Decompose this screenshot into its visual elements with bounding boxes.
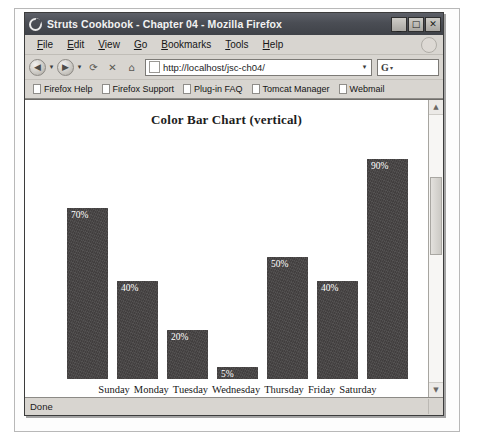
x-tick-saturday: Saturday: [339, 384, 376, 395]
menu-view[interactable]: View: [91, 39, 127, 50]
bar-sunday: 70%: [67, 208, 108, 380]
bar-chart: 70% 40% 20% 5% 50%: [25, 134, 428, 397]
screenshot-root: Struts Cookbook - Chapter 04 - Mozilla F…: [0, 0, 477, 447]
chart-plot-area: 70% 40% 20% 5% 50%: [67, 134, 408, 379]
stop-icon[interactable]: ✕: [104, 59, 121, 76]
menu-bookmarks[interactable]: Bookmarks: [154, 39, 218, 50]
bookmark-webmail[interactable]: Webmail: [335, 84, 389, 94]
x-tick-tuesday: Tuesday: [173, 384, 208, 395]
bar-monday: 40%: [117, 281, 158, 379]
navigation-toolbar: ◀ ▾ ▶ ▾ ⟳ ✕ ⌂ http://localhost/jsc-ch04/…: [25, 55, 443, 80]
bar-tuesday: 20%: [167, 330, 208, 379]
scroll-down-arrow-icon[interactable]: ▼: [429, 382, 443, 397]
status-bar: Done: [25, 397, 443, 415]
bookmark-firefox-help[interactable]: Firefox Help: [29, 84, 97, 94]
close-button[interactable]: ✕: [425, 17, 441, 32]
x-tick-sunday: Sunday: [98, 384, 130, 395]
google-search-icon[interactable]: G: [381, 62, 389, 73]
bar-value-label: 40%: [121, 283, 138, 293]
x-tick-friday: Friday: [308, 384, 335, 395]
bar-value-label: 40%: [321, 283, 338, 293]
bookmark-label: Firefox Help: [44, 84, 93, 94]
bookmark-page-icon: [339, 84, 347, 94]
bookmark-page-icon: [102, 84, 110, 94]
forward-arrow-icon[interactable]: ▶: [57, 59, 74, 76]
menubar: File Edit View Go Bookmarks Tools Help: [25, 35, 443, 55]
back-dropdown-caret-icon[interactable]: ▾: [48, 63, 55, 71]
x-tick-wednesday: Wednesday: [212, 384, 260, 395]
scrollbar-thumb[interactable]: [430, 177, 442, 255]
x-axis-tick-labels: Sunday Monday Tuesday Wednesday Thursday…: [67, 384, 408, 395]
bookmark-page-icon: [183, 84, 191, 94]
resize-grip-icon[interactable]: [428, 399, 443, 414]
home-icon[interactable]: ⌂: [123, 59, 140, 76]
menu-tools[interactable]: Tools: [218, 39, 255, 50]
bar-value-label: 20%: [171, 332, 188, 342]
bar-friday: 40%: [317, 281, 358, 379]
address-dropdown-caret-icon[interactable]: ▾: [358, 60, 371, 75]
bar-thursday: 50%: [267, 257, 308, 380]
bar-saturday: 90%: [367, 159, 408, 380]
menu-file[interactable]: File: [30, 39, 60, 50]
bookmarks-toolbar: Firefox Help Firefox Support Plug-in FAQ…: [25, 80, 443, 99]
bookmark-tomcat-manager[interactable]: Tomcat Manager: [248, 84, 334, 94]
x-tick-thursday: Thursday: [264, 384, 304, 395]
page-content: Color Bar Chart (vertical) 70% 40% 20%: [25, 100, 428, 397]
address-input[interactable]: http://localhost/jsc-ch04/: [163, 62, 358, 73]
status-text: Done: [25, 401, 428, 412]
bar-value-label: 90%: [371, 161, 388, 171]
page-title: Color Bar Chart (vertical): [25, 112, 428, 128]
bookmark-page-icon: [252, 84, 260, 94]
minimize-button[interactable]: _: [391, 17, 407, 32]
scroll-up-arrow-icon[interactable]: ▲: [429, 100, 443, 115]
vertical-scrollbar[interactable]: ▲ ▼: [428, 100, 443, 397]
forward-dropdown-caret-icon[interactable]: ▾: [76, 63, 83, 71]
firefox-logo-icon: [421, 37, 437, 53]
back-arrow-icon[interactable]: ◀: [29, 59, 46, 76]
window-title: Struts Cookbook - Chapter 04 - Mozilla F…: [47, 18, 391, 30]
menu-go[interactable]: Go: [127, 39, 154, 50]
bookmark-plug-in-faq[interactable]: Plug-in FAQ: [179, 84, 247, 94]
bookmark-firefox-support[interactable]: Firefox Support: [98, 84, 179, 94]
window-controls: _ □ ✕: [391, 17, 441, 32]
bar-value-label: 50%: [271, 259, 288, 269]
maximize-button[interactable]: □: [408, 17, 424, 32]
menu-edit[interactable]: Edit: [60, 39, 91, 50]
firefox-icon: [29, 18, 42, 31]
bookmark-label: Webmail: [350, 84, 385, 94]
reload-icon[interactable]: ⟳: [85, 59, 102, 76]
bookmark-label: Plug-in FAQ: [194, 84, 243, 94]
minimize-icon: _: [397, 23, 402, 32]
address-bar[interactable]: http://localhost/jsc-ch04/ ▾: [145, 59, 372, 76]
bookmark-label: Tomcat Manager: [263, 84, 330, 94]
browser-window: Struts Cookbook - Chapter 04 - Mozilla F…: [24, 12, 444, 416]
bar-value-label: 70%: [71, 210, 88, 220]
content-viewport: Color Bar Chart (vertical) 70% 40% 20%: [25, 99, 443, 397]
bookmark-page-icon: [33, 84, 41, 94]
bar-wednesday: 5%: [217, 367, 258, 379]
search-dropdown-caret-icon[interactable]: ▾: [390, 64, 393, 71]
search-bar[interactable]: G ▾: [377, 59, 439, 76]
menu-help[interactable]: Help: [256, 39, 291, 50]
scrollbar-track[interactable]: [429, 115, 443, 382]
bookmark-label: Firefox Support: [113, 84, 175, 94]
maximize-icon: □: [412, 20, 421, 29]
bar-value-label: 5%: [221, 369, 234, 379]
close-icon: ✕: [429, 20, 437, 29]
x-tick-monday: Monday: [134, 384, 169, 395]
page-icon: [149, 61, 160, 73]
window-titlebar[interactable]: Struts Cookbook - Chapter 04 - Mozilla F…: [25, 13, 443, 35]
